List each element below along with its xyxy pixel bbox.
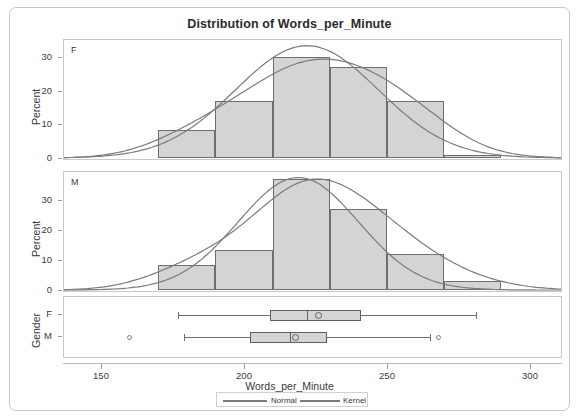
x-axis-tick-mark [244, 364, 245, 369]
boxplot-outlier [127, 335, 132, 340]
boxplot-median [290, 332, 291, 343]
boxplot-whisker-cap [184, 334, 185, 341]
y-axis-tick-label: 20 [26, 225, 52, 235]
boxplot-whisker-cap [430, 334, 431, 341]
group-axis-tick-label: F [26, 308, 52, 319]
y-axis-tick-label: 20 [26, 86, 52, 96]
density-curves-f [64, 40, 561, 159]
x-axis-label: Words_per_Minute [0, 380, 579, 392]
y-axis-tick-label: 30 [26, 195, 52, 205]
y-axis-tick-mark [58, 230, 62, 231]
x-axis-tick-mark [101, 364, 102, 369]
boxplot-whisker-cap [476, 312, 477, 319]
boxplot-mean-marker [315, 312, 322, 319]
y-axis-tick-mark [58, 124, 62, 125]
group-axis-tick-mark [58, 336, 62, 337]
boxplot-median [307, 310, 308, 321]
density-curve [64, 59, 561, 158]
y-axis-tick-mark [58, 260, 62, 261]
histogram-panel-f: F [63, 39, 562, 160]
density-curve [64, 46, 561, 158]
legend-swatch-normal [223, 400, 267, 402]
group-axis-tick-mark [58, 314, 62, 315]
y-axis-tick-label: 10 [26, 255, 52, 265]
legend-label-normal: Normal [271, 396, 297, 405]
boxplot-whisker-cap [178, 312, 179, 319]
x-axis-tick-mark [530, 364, 531, 369]
y-axis-tick-label: 0 [26, 285, 52, 295]
y-axis-tick-mark [58, 91, 62, 92]
x-axis-tick-mark [387, 364, 388, 369]
histogram-panel-m: M [63, 171, 562, 292]
y-axis-tick-label: 0 [26, 153, 52, 163]
y-axis-tick-mark [58, 158, 62, 159]
chart-title: Distribution of Words_per_Minute [0, 17, 579, 31]
y-axis-tick-label: 10 [26, 119, 52, 129]
density-curve [64, 178, 561, 291]
y-axis-tick-label: 30 [26, 52, 52, 62]
y-axis-tick-mark [58, 290, 62, 291]
group-axis-tick-label: M [26, 330, 52, 341]
chart-root: Distribution of Words_per_Minute Percent… [0, 0, 579, 420]
legend-swatch-kernel [300, 400, 340, 402]
legend: Normal Kernel [216, 392, 368, 407]
density-curve [64, 179, 561, 290]
legend-label-kernel: Kernel [343, 396, 366, 405]
density-curves-m [64, 172, 561, 291]
boxplot-outlier [436, 335, 441, 340]
boxplot-box [250, 332, 327, 343]
x-axis-line [63, 363, 562, 364]
boxplot-panel [63, 296, 562, 358]
y-axis-tick-mark [58, 200, 62, 201]
boxplot-mean-marker [292, 334, 299, 341]
y-axis-tick-mark [58, 57, 62, 58]
